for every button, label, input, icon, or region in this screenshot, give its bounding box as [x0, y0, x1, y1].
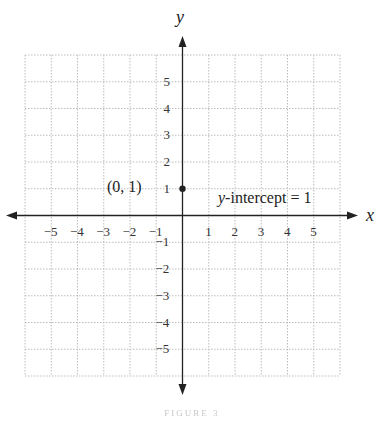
y-tick-label: −4 [156, 316, 170, 329]
data-points [179, 186, 185, 192]
y-tick-label: 5 [164, 75, 171, 88]
y-tick-label: 4 [164, 102, 171, 115]
point-label: (0, 1) [107, 179, 142, 195]
y-tick-label: 3 [164, 128, 171, 141]
x-tick-label: −5 [44, 225, 58, 238]
coordinate-plane [0, 0, 384, 422]
y-tick-label: 2 [164, 155, 171, 168]
x-axis-label: x [366, 206, 374, 224]
x-tick-label: 4 [284, 225, 291, 238]
x-tick-label: 2 [232, 225, 239, 238]
y-tick-label: −3 [156, 289, 170, 302]
y-tick-label: −1 [156, 235, 170, 248]
intercept-text: -intercept = 1 [225, 189, 311, 206]
y-tick-label: −2 [156, 262, 170, 275]
figure-caption: FIGURE 3 [0, 408, 384, 418]
x-tick-label: 3 [258, 225, 265, 238]
x-tick-label: 1 [205, 225, 212, 238]
y-tick-label: 1 [164, 182, 171, 195]
axes [6, 36, 358, 395]
x-tick-label: −2 [123, 225, 137, 238]
y-tick-label: −5 [156, 342, 170, 355]
x-tick-label: 5 [310, 225, 317, 238]
x-tick-label: −4 [70, 225, 84, 238]
x-tick-label: −3 [96, 225, 110, 238]
intercept-annotation: y-intercept = 1 [218, 190, 311, 206]
y-axis-label: y [176, 8, 184, 26]
